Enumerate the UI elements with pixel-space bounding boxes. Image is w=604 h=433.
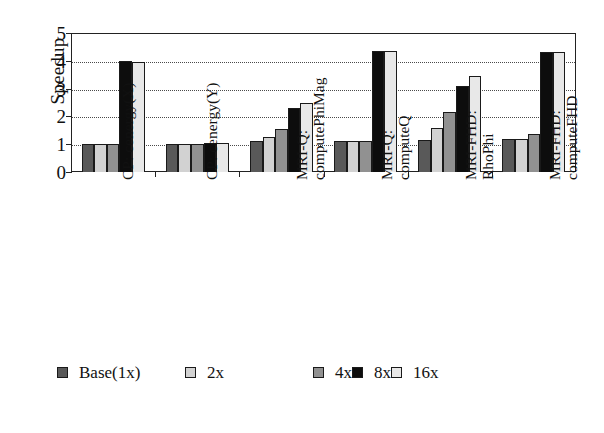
y-tick-label: 0 <box>26 163 66 182</box>
legend-swatch <box>185 367 196 378</box>
legend-item: 8x <box>352 360 391 385</box>
x-category-label: MRI-FHD:computeFHD <box>546 30 581 180</box>
y-tick-label: 1 <box>26 135 66 154</box>
legend-label: 16x <box>413 364 439 381</box>
legend-label: 2x <box>207 364 224 381</box>
legend-item: Base(1x) <box>57 360 185 385</box>
legend-swatch <box>57 367 68 378</box>
y-tick-label: 5 <box>26 24 66 43</box>
x-category-label: MRI-FHD:RhoPhi <box>462 30 497 180</box>
x-category-label: CP: cenergy(X) <box>119 30 136 180</box>
x-tick-mark <box>239 172 240 177</box>
chart-legend: Base(1x)2x4x8x16x <box>57 360 337 385</box>
bar-chart-figure: Speedup 012345 CP: cenergy(X)CP: cenergy… <box>0 0 604 433</box>
legend-label: Base(1x) <box>79 364 140 381</box>
legend-label: 8x <box>374 364 391 381</box>
x-category-label: MRI-Q:computePhiMag <box>293 30 328 180</box>
legend-item: 4x <box>313 360 352 385</box>
legend-item: 2x <box>185 360 313 385</box>
x-tick-mark <box>155 172 156 177</box>
y-tick-label: 4 <box>26 51 66 70</box>
x-category-label: CP: cenergy(Y) <box>203 30 220 180</box>
legend-swatch <box>313 367 324 378</box>
y-tick-label: 3 <box>26 79 66 98</box>
y-tick-label: 2 <box>26 107 66 126</box>
x-category-label: MRI-Q:computeQ <box>378 30 413 180</box>
legend-swatch <box>352 367 363 378</box>
legend-swatch <box>391 367 402 378</box>
legend-label: 4x <box>335 364 352 381</box>
legend-item: 16x <box>391 360 439 385</box>
y-tick-mark <box>66 172 72 173</box>
